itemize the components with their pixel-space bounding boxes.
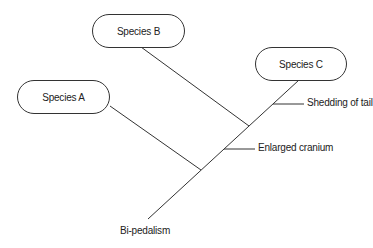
species-c-label: Species C: [279, 59, 323, 70]
species-b-branch-line: [141, 47, 249, 126]
trait-shedding-of-tail: Shedding of tail: [307, 97, 373, 108]
trait-bi-pedalism: Bi-pedalism: [120, 225, 170, 236]
species-a-label: Species A: [42, 92, 85, 103]
species-b-label: Species B: [117, 26, 160, 37]
trait-enlarged-cranium: Enlarged cranium: [258, 142, 333, 153]
species-b-node: Species B: [92, 14, 185, 48]
species-c-node: Species C: [255, 47, 347, 81]
species-a-branch-line: [110, 106, 201, 170]
species-a-node: Species A: [17, 80, 110, 114]
